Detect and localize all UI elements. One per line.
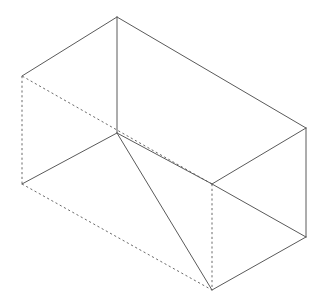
cuboid-wireframe-figure bbox=[0, 0, 326, 304]
figure-background bbox=[0, 0, 326, 304]
drawing-canvas bbox=[0, 0, 326, 304]
